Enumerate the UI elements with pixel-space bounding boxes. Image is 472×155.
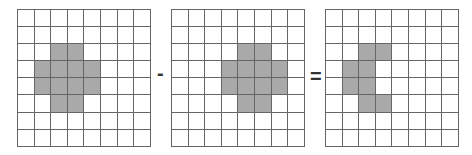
empty-cell	[288, 61, 305, 78]
empty-cell	[172, 95, 189, 112]
empty-cell	[392, 27, 409, 44]
empty-cell	[101, 113, 118, 130]
empty-cell	[238, 113, 255, 130]
empty-cell	[101, 27, 118, 44]
empty-cell	[426, 130, 443, 147]
empty-cell	[272, 95, 289, 112]
filled-cell	[272, 78, 289, 95]
filled-cell	[238, 61, 255, 78]
empty-cell	[118, 61, 135, 78]
empty-cell	[392, 61, 409, 78]
empty-cell	[409, 61, 426, 78]
empty-cell	[118, 78, 135, 95]
empty-cell	[18, 78, 35, 95]
empty-cell	[326, 44, 343, 61]
empty-cell	[134, 113, 151, 130]
empty-cell	[426, 78, 443, 95]
empty-cell	[118, 95, 135, 112]
empty-cell	[172, 130, 189, 147]
empty-cell	[18, 130, 35, 147]
empty-cell	[442, 78, 459, 95]
empty-cell	[18, 113, 35, 130]
empty-cell	[392, 78, 409, 95]
empty-cell	[51, 10, 68, 27]
empty-cell	[326, 113, 343, 130]
filled-cell	[376, 44, 393, 61]
empty-cell	[272, 44, 289, 61]
empty-cell	[326, 95, 343, 112]
filled-cell	[51, 78, 68, 95]
empty-cell	[189, 44, 206, 61]
empty-cell	[343, 10, 360, 27]
empty-cell	[35, 95, 52, 112]
empty-cell	[409, 113, 426, 130]
empty-cell	[84, 44, 101, 61]
filled-cell	[222, 78, 239, 95]
empty-cell	[326, 130, 343, 147]
empty-cell	[376, 113, 393, 130]
empty-cell	[376, 130, 393, 147]
empty-cell	[326, 10, 343, 27]
filled-cell	[68, 44, 85, 61]
empty-cell	[35, 130, 52, 147]
empty-cell	[272, 130, 289, 147]
empty-cell	[205, 61, 222, 78]
filled-cell	[255, 61, 272, 78]
empty-cell	[343, 95, 360, 112]
empty-cell	[288, 130, 305, 147]
empty-cell	[101, 61, 118, 78]
empty-cell	[35, 27, 52, 44]
empty-cell	[172, 27, 189, 44]
empty-cell	[68, 130, 85, 147]
empty-cell	[134, 95, 151, 112]
empty-cell	[288, 10, 305, 27]
empty-cell	[288, 113, 305, 130]
empty-cell	[51, 113, 68, 130]
empty-cell	[288, 78, 305, 95]
filled-cell	[255, 95, 272, 112]
filled-cell	[343, 61, 360, 78]
empty-cell	[84, 95, 101, 112]
empty-cell	[426, 61, 443, 78]
empty-cell	[205, 27, 222, 44]
empty-cell	[18, 27, 35, 44]
filled-cell	[359, 44, 376, 61]
empty-cell	[255, 130, 272, 147]
empty-cell	[272, 27, 289, 44]
empty-cell	[134, 27, 151, 44]
empty-cell	[222, 44, 239, 61]
empty-cell	[272, 113, 289, 130]
filled-cell	[51, 95, 68, 112]
empty-cell	[118, 10, 135, 27]
empty-cell	[205, 113, 222, 130]
empty-cell	[18, 44, 35, 61]
empty-cell	[101, 130, 118, 147]
empty-cell	[51, 130, 68, 147]
grid-b	[171, 9, 305, 147]
empty-cell	[189, 27, 206, 44]
empty-cell	[343, 27, 360, 44]
minus-operator: -	[157, 63, 164, 83]
empty-cell	[118, 27, 135, 44]
empty-cell	[288, 27, 305, 44]
empty-cell	[172, 78, 189, 95]
empty-cell	[442, 44, 459, 61]
empty-cell	[376, 61, 393, 78]
filled-cell	[35, 78, 52, 95]
filled-cell	[222, 61, 239, 78]
empty-cell	[134, 44, 151, 61]
empty-cell	[442, 27, 459, 44]
empty-cell	[409, 10, 426, 27]
empty-cell	[118, 130, 135, 147]
filled-cell	[238, 78, 255, 95]
empty-cell	[172, 61, 189, 78]
empty-cell	[84, 10, 101, 27]
empty-cell	[376, 10, 393, 27]
empty-cell	[134, 130, 151, 147]
empty-cell	[51, 27, 68, 44]
empty-cell	[326, 61, 343, 78]
empty-cell	[35, 10, 52, 27]
empty-cell	[84, 113, 101, 130]
empty-cell	[359, 27, 376, 44]
empty-cell	[442, 61, 459, 78]
